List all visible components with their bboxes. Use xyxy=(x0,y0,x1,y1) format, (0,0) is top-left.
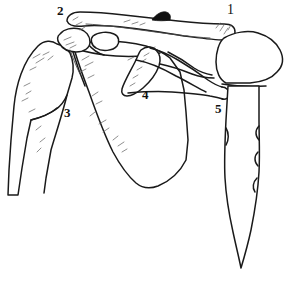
callout-label-2: 2 xyxy=(57,4,64,17)
callout-label-5: 5 xyxy=(215,102,222,115)
sternum-group xyxy=(216,32,282,268)
callout-label-4: 4 xyxy=(142,88,149,101)
scapula-superior-tubercle xyxy=(91,32,118,50)
clavicle-dark-notch xyxy=(152,12,170,21)
sternum-body-xiphoid xyxy=(225,86,260,268)
callout-label-3: 3 xyxy=(64,106,71,119)
sternum-manubrium xyxy=(216,32,282,83)
callout-label-1: 1 xyxy=(227,3,234,17)
anatomical-figure: 2 1 3 4 5 xyxy=(0,0,292,285)
bone-diagram-canvas xyxy=(0,0,292,285)
